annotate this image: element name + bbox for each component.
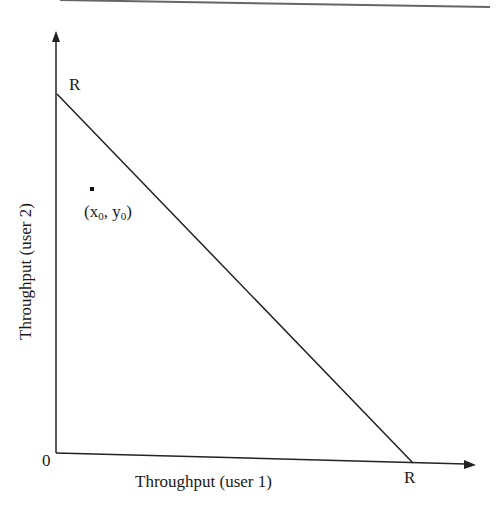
y-axis-arrow-icon <box>52 31 60 42</box>
operating-point-label: (x0, y0) <box>84 203 132 222</box>
y-intercept-label: R <box>69 76 80 93</box>
x-axis-arrow-icon <box>464 460 476 469</box>
operating-point-marker <box>90 187 94 191</box>
boundary-line <box>57 94 413 463</box>
point-x-sub: 0 <box>98 210 104 222</box>
point-x: x <box>90 202 99 221</box>
y-axis-label: Throughput (user 2) <box>16 203 36 340</box>
x-intercept-label: R <box>404 469 415 486</box>
point-y: y <box>112 202 121 221</box>
x-axis-label: Throughput (user 1) <box>135 473 272 490</box>
origin-label: 0 <box>42 452 51 469</box>
top-rule <box>60 0 490 7</box>
point-y-sub: 0 <box>121 210 127 222</box>
